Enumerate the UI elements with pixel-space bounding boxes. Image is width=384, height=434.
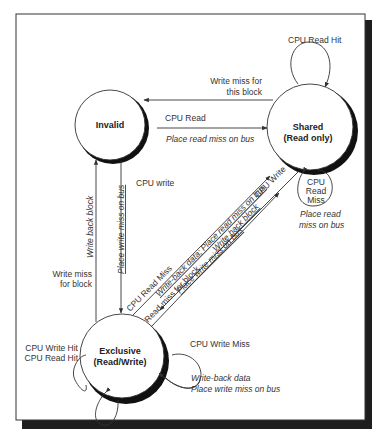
label-place-write-miss-3: Place write miss on bus bbox=[191, 384, 281, 394]
label-cpu-read: CPU Read bbox=[165, 113, 206, 123]
label-cpu-write-miss: CPU Write Miss bbox=[190, 339, 250, 349]
state-shared-sublabel: (Read only) bbox=[283, 133, 332, 143]
state-shared-label: Shared bbox=[293, 122, 324, 132]
label-place-write-miss: Place write miss on bus bbox=[116, 184, 126, 274]
label-write-miss-for-block-1: Write miss bbox=[52, 269, 92, 279]
label-cpu-read-hit: CPU Read Hit bbox=[288, 35, 342, 45]
label-place-read-miss-2: miss on bus bbox=[299, 220, 345, 230]
label-cpu-write-hit: CPU Write Hit bbox=[25, 343, 78, 353]
state-diagram: Invalid Shared (Read only) Exclusive (Re… bbox=[0, 0, 384, 434]
label-write-miss-this-block-2: this block bbox=[227, 87, 263, 97]
state-exclusive-sublabel: (Read/Write) bbox=[94, 357, 147, 367]
label-write-miss-for-block-2: for block bbox=[60, 279, 93, 289]
label-place-read-miss: Place read miss on bus bbox=[166, 134, 255, 144]
label-write-back-data: Write-back data bbox=[191, 373, 251, 383]
label-cpu-read-hit-2: CPU Read Hit bbox=[25, 353, 79, 363]
label-cpu-write: CPU write bbox=[136, 178, 175, 188]
state-exclusive-label: Exclusive bbox=[99, 346, 141, 356]
state-invalid-label: Invalid bbox=[96, 120, 125, 130]
label-cpu-read-miss-3: Miss bbox=[307, 195, 324, 205]
label-write-miss-this-block-1: Write miss for bbox=[210, 76, 262, 86]
label-write-back-block: Write back block bbox=[85, 195, 95, 258]
label-place-read-miss-1: Place read bbox=[300, 209, 341, 219]
